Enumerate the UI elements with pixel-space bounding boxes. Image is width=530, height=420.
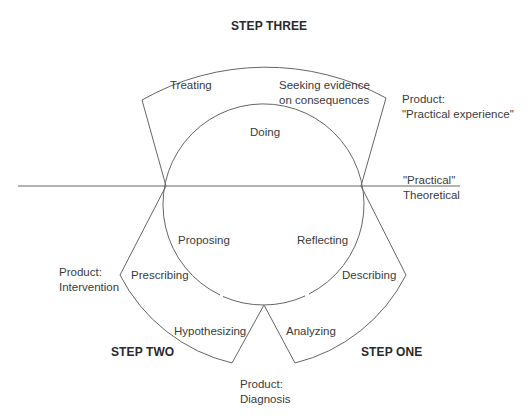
label-seeking-line1: Seeking evidence bbox=[279, 78, 370, 93]
label-describing: Describing bbox=[342, 268, 396, 283]
product-intervention-line1: Product: bbox=[59, 265, 119, 280]
label-reflecting: Reflecting bbox=[297, 233, 348, 248]
product-diagnosis-line1: Product: bbox=[240, 377, 291, 392]
product-intervention: Product: Intervention bbox=[59, 265, 119, 295]
label-treating: Treating bbox=[170, 78, 212, 93]
product-practical-line2: "Practical experience" bbox=[402, 107, 514, 122]
product-practical-experience: Product: "Practical experience" bbox=[402, 92, 514, 122]
central-circle-bottom-arc bbox=[223, 296, 305, 305]
label-hypothesizing: Hypothesizing bbox=[174, 324, 246, 339]
step-one-heading: STEP ONE bbox=[361, 345, 422, 359]
cycle-diagram-lines bbox=[0, 0, 530, 420]
label-seeking-line2: on consequences bbox=[279, 93, 370, 108]
label-prescribing: Prescribing bbox=[131, 268, 189, 283]
step-three-heading: STEP THREE bbox=[231, 19, 307, 33]
product-practical-line1: Product: bbox=[402, 92, 514, 107]
product-diagnosis-line2: Diagnosis bbox=[240, 392, 291, 407]
product-intervention-line2: Intervention bbox=[59, 280, 119, 295]
label-analyzing: Analyzing bbox=[286, 324, 336, 339]
label-doing: Doing bbox=[250, 125, 280, 140]
label-seeking-evidence: Seeking evidence on consequences bbox=[279, 78, 370, 108]
axis-label-theoretical: Theoretical bbox=[403, 188, 460, 203]
step-two-heading: STEP TWO bbox=[111, 345, 174, 359]
product-diagnosis: Product: Diagnosis bbox=[240, 377, 291, 407]
label-proposing: Proposing bbox=[178, 233, 230, 248]
axis-label-practical: "Practical" bbox=[403, 173, 455, 188]
